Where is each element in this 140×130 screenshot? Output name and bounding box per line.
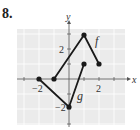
y-tick-label-2: 2	[59, 44, 64, 55]
plot-area	[17, 29, 125, 125]
x-axis-label: x	[131, 74, 137, 85]
y-axis-label: y	[65, 11, 71, 22]
x-tick-label-neg2: −2	[32, 83, 43, 94]
label-g: g	[77, 89, 83, 103]
graph: y x −2 2 2 −2 f g	[0, 0, 140, 130]
x-arrow-icon	[127, 77, 131, 81]
y-tick-label-neg2: −2	[55, 102, 66, 113]
x-tick-label-2: 2	[96, 83, 101, 94]
